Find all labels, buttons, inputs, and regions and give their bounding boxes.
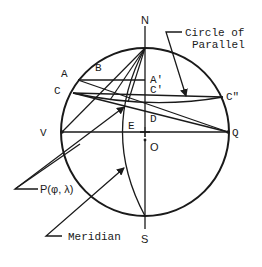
- circle-of-parallel-leader: [166, 32, 186, 96]
- label-s: S: [141, 233, 148, 245]
- label-circle-of-parallel-1: Circle of: [185, 27, 244, 39]
- label-b: B: [95, 62, 102, 74]
- label-c-prime: C': [150, 84, 163, 96]
- label-c: C: [54, 85, 61, 97]
- point-o-dot: [144, 139, 147, 142]
- label-c-double-prime: C": [226, 91, 239, 103]
- label-o: O: [150, 141, 159, 153]
- label-circle-of-parallel-2: Parallel: [192, 39, 245, 51]
- label-a: A: [61, 68, 68, 80]
- label-q: Q: [232, 127, 239, 139]
- chord-c-c-double-prime: [73, 93, 223, 97]
- label-n: N: [141, 14, 149, 26]
- label-point-p: P(φ, λ): [40, 183, 73, 195]
- label-d: D: [150, 113, 157, 125]
- meridian-leader: [46, 168, 124, 236]
- label-e: E: [128, 120, 135, 132]
- label-v: V: [40, 127, 47, 139]
- label-meridian: Meridian: [68, 231, 121, 243]
- sphere-diagram: N S V Q E O D A B C A' C' C" Circle of P…: [0, 0, 262, 267]
- point-p-leader-upper: [15, 107, 124, 189]
